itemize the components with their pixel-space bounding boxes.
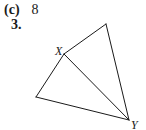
geometry-figure: X Y bbox=[0, 0, 146, 130]
segment-left-y bbox=[36, 97, 129, 120]
vertex-label-x: X bbox=[54, 44, 63, 58]
vertex-label-y: Y bbox=[131, 118, 139, 130]
segment-x-y bbox=[64, 54, 129, 120]
segment-x-top bbox=[64, 24, 106, 54]
segment-top-y bbox=[106, 24, 129, 120]
segment-x-left bbox=[36, 54, 64, 97]
